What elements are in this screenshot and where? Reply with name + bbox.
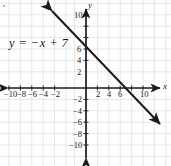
line-series-y-equals-neg-x-plus-7 xyxy=(52,11,160,124)
x-tick-label-neg8: −8 xyxy=(17,90,26,99)
y-tick-label-neg2: −2 xyxy=(73,95,82,104)
y-tick-label-neg4: −4 xyxy=(73,107,82,116)
y-axis-name-label: y xyxy=(88,1,92,10)
equation-annotation: y = −x + 7 xyxy=(9,36,68,51)
x-axis-name-label: x xyxy=(163,82,167,91)
y-tick-label-10: 10 xyxy=(74,11,83,20)
plot-area xyxy=(0,0,171,166)
coordinate-graph-figure: −10 −8 −6 −4 −2 2 4 6 10 10 6 4 2 −2 −4 … xyxy=(0,0,171,166)
y-tick-label-neg8: −8 xyxy=(73,130,82,139)
x-tick-label-4: 4 xyxy=(107,90,111,99)
y-tick-label-neg10: −10 xyxy=(69,141,82,150)
x-tick-label-10: 10 xyxy=(140,90,149,99)
y-tick-label-6: 6 xyxy=(77,45,81,54)
x-tick-label-neg10: −10 xyxy=(4,90,17,99)
y-tick-label-2: 2 xyxy=(77,68,81,77)
y-tick-label-neg6: −6 xyxy=(73,118,82,127)
x-tick-label-2: 2 xyxy=(96,90,100,99)
x-tick-label-6: 6 xyxy=(118,90,122,99)
y-tick-label-4: 4 xyxy=(77,56,81,65)
x-tick-label-neg6: −6 xyxy=(28,90,37,99)
x-tick-label-neg4: −4 xyxy=(39,90,48,99)
x-tick-label-neg2: −2 xyxy=(51,90,60,99)
